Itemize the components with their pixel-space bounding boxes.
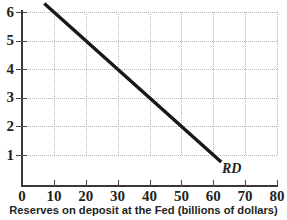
demand-curve-svg: [0, 0, 287, 220]
x-axis-title: Reserves on deposit at the Fed (billions…: [0, 204, 287, 216]
series-label-rd: RD: [222, 161, 241, 177]
rd-demand-curve-line: [44, 3, 221, 162]
reserve-demand-chart: 6 5 4 3 2 1 0 10 20 30 40 50 60 70 80 RD…: [0, 0, 287, 220]
